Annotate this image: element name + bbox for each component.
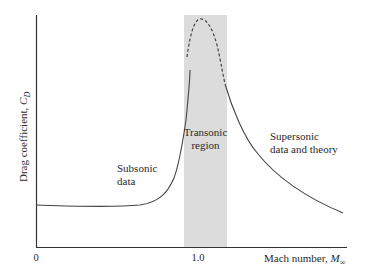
annotation-transonic-line1: Transonic [184,126,228,138]
annotation-subsonic-line1: Subsonic [117,162,157,174]
y-axis-label: Drag coefficient, CD [17,92,32,182]
annotation-transonic-line2: region [191,139,220,151]
x-axis-label: Mach number, M∞ [264,252,346,267]
drag-chart: 0 1.0 Mach number, M∞ Drag coefficient, … [0,0,377,270]
annotation-supersonic-line1: Supersonic [270,130,319,142]
subsonic-curve [36,70,190,207]
annotation-subsonic-line2: data [117,175,135,187]
x-tick-0: 0 [33,252,38,263]
annotation-supersonic-line2: data and theory [270,143,338,155]
x-tick-1: 1.0 [191,252,204,263]
